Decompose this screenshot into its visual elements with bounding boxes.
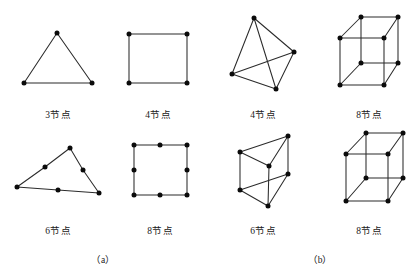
mesh-node [292, 50, 297, 55]
mesh-node [401, 176, 406, 181]
mesh-node [267, 164, 272, 169]
panel-caption-panel-b: （b） [308, 252, 333, 266]
mesh-node [22, 81, 27, 86]
mesh-edge [240, 136, 288, 152]
mesh-node [158, 143, 163, 148]
mesh-edge [340, 63, 361, 85]
mesh-node [364, 131, 369, 136]
mesh-edge [17, 167, 45, 187]
mesh-node [185, 143, 190, 148]
node-count-label-prism-6-node: 6节点 [250, 223, 276, 237]
mesh-node [97, 191, 102, 196]
mesh-edge [269, 136, 288, 166]
mesh-node [359, 61, 364, 66]
mesh-node [15, 185, 20, 190]
mesh-node [286, 134, 291, 139]
mesh-edge [384, 17, 398, 38]
mesh-edge [45, 148, 70, 167]
mesh-node [127, 32, 132, 37]
mesh-node [396, 15, 401, 20]
mesh-node [127, 81, 132, 86]
mesh-node [185, 81, 190, 86]
node-count-label-quad-4-node: 4节点 [145, 107, 171, 121]
mesh-node [238, 188, 243, 193]
mesh-node [132, 143, 137, 148]
mesh-element-hexahedron-8-node-b [344, 131, 406, 204]
mesh-node [386, 152, 391, 157]
mesh-edge [17, 187, 58, 190]
mesh-node [56, 188, 61, 193]
mesh-node [90, 81, 95, 86]
mesh-node [266, 204, 271, 209]
mesh-node [132, 168, 137, 173]
mesh-edge [232, 18, 254, 74]
mesh-edge [268, 166, 269, 206]
mesh-node [338, 83, 343, 88]
mesh-edge [57, 33, 92, 83]
mesh-node [382, 83, 387, 88]
mesh-edge [240, 190, 268, 206]
node-count-label-tetrahedron-4-node: 4节点 [250, 107, 276, 121]
mesh-element-tetrahedron-4-node [230, 16, 297, 92]
mesh-node [338, 36, 343, 41]
node-count-label-triangle-3-node: 3节点 [45, 107, 71, 121]
mesh-edge [240, 174, 288, 190]
mesh-node [401, 131, 406, 136]
mesh-edge [83, 170, 99, 193]
mesh-element-figure: 3节点4节点4节点8节点6节点8节点6节点8节点（a）（b） [0, 0, 420, 268]
mesh-node [386, 199, 391, 204]
mesh-node [132, 193, 137, 198]
mesh-node [286, 172, 291, 177]
mesh-element-hexahedron-8-node [338, 15, 401, 88]
mesh-node [55, 31, 60, 36]
mesh-node [185, 32, 190, 37]
mesh-node [185, 193, 190, 198]
mesh-node [396, 61, 401, 66]
mesh-element-triangle-6-node [15, 146, 102, 196]
mesh-element-triangle-3-node [22, 31, 95, 86]
mesh-node [81, 168, 86, 173]
mesh-node [274, 87, 279, 92]
node-count-label-hexahedron-8-node: 8节点 [356, 107, 382, 121]
mesh-edge [384, 63, 398, 85]
mesh-edge [58, 190, 99, 193]
mesh-node [185, 168, 190, 173]
mesh-element-quad-4-node [127, 32, 190, 86]
mesh-edge [24, 33, 57, 83]
mesh-node [238, 150, 243, 155]
panel-caption-panel-a: （a） [91, 252, 115, 266]
mesh-edge [240, 152, 269, 166]
mesh-node [359, 15, 364, 20]
mesh-edge [346, 178, 366, 201]
mesh-edge [254, 18, 294, 52]
mesh-node [68, 146, 73, 151]
mesh-node [344, 152, 349, 157]
mesh-edge [388, 178, 403, 201]
mesh-node [382, 36, 387, 41]
mesh-node [43, 165, 48, 170]
node-count-label-hexahedron-8-node-b: 8节点 [356, 223, 382, 237]
mesh-element-prism-6-node [238, 134, 291, 209]
node-count-label-quad-8-node: 8节点 [147, 223, 173, 237]
mesh-element-quad-8-node [132, 143, 190, 198]
mesh-node [230, 72, 235, 77]
mesh-node [364, 176, 369, 181]
mesh-edge [268, 174, 288, 206]
node-count-label-triangle-6-node: 6节点 [45, 223, 71, 237]
mesh-node [158, 193, 163, 198]
mesh-edge [340, 17, 361, 38]
mesh-edge [232, 74, 276, 89]
mesh-edge [254, 18, 276, 89]
mesh-edge [346, 133, 366, 154]
mesh-edge [388, 133, 403, 154]
mesh-node [252, 16, 257, 21]
mesh-edge [70, 148, 83, 170]
mesh-node [344, 199, 349, 204]
